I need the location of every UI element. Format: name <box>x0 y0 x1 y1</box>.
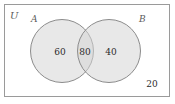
region-value-intersection: 80 <box>74 48 96 57</box>
region-value-b-only: 40 <box>99 48 123 57</box>
set-b-label: B <box>139 15 146 24</box>
region-value-outside: 20 <box>140 80 164 89</box>
universal-set-label: U <box>10 11 18 21</box>
venn-diagram-figure: U A B 60 80 40 20 <box>0 0 175 104</box>
region-value-a-only: 60 <box>48 48 72 57</box>
set-a-label: A <box>31 15 38 24</box>
